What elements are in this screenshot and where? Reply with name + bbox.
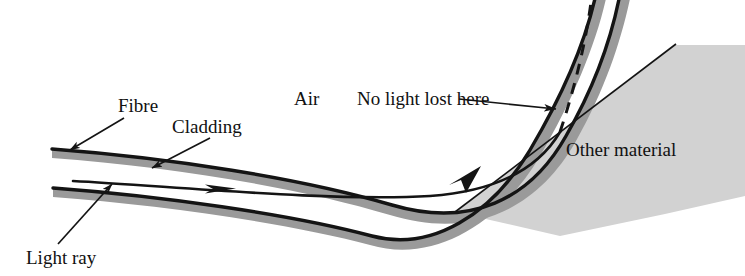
fibre-leader-line — [70, 118, 124, 150]
diagram-svg — [0, 0, 745, 276]
label-air: Air — [294, 88, 319, 110]
label-light-ray: Light ray — [26, 247, 96, 269]
label-no-light-lost-here: No light lost here — [357, 88, 489, 110]
figure-canvas: Fibre Cladding Air No light lost here Ot… — [0, 0, 745, 276]
label-fibre: Fibre — [118, 95, 158, 117]
label-cladding: Cladding — [172, 116, 242, 138]
label-other-material: Other material — [566, 139, 676, 161]
